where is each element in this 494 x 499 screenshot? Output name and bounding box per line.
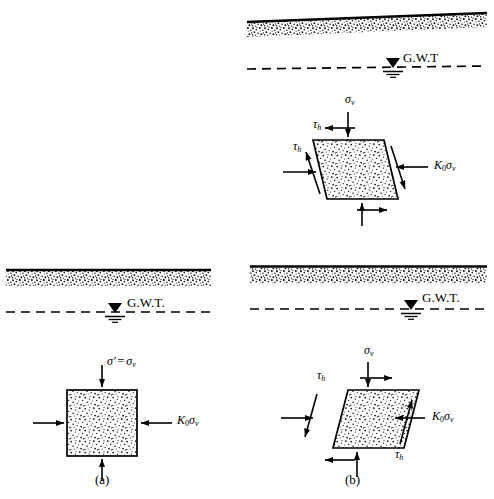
shear-stress-side-label-panel-b-top: τh bbox=[293, 140, 301, 154]
soil-element-square bbox=[67, 390, 137, 456]
vertical-stress-label-panel-a: σ′=σv bbox=[107, 355, 136, 369]
K-glyph: K bbox=[432, 409, 440, 423]
shear-stress-top-label-panel-b-top: τh bbox=[313, 118, 321, 132]
shear-stress-top-label-panel-b-bottom: τh bbox=[317, 369, 325, 383]
panel-b-bottom-ground bbox=[250, 267, 487, 284]
sub-v-glyph: v bbox=[351, 98, 355, 107]
panel-b-bottom-element bbox=[281, 362, 425, 477]
gwt-label-panel-b-bottom: G.W.T. bbox=[422, 291, 460, 304]
K-glyph: K bbox=[434, 158, 442, 172]
vertical-stress-label-panel-b-bottom: σv bbox=[364, 344, 373, 358]
gwt-label-panel-a: G.W.T. bbox=[127, 296, 165, 309]
horizontal-stress-label-panel-a: K0σv bbox=[177, 414, 199, 428]
panel-b-top-ground bbox=[247, 13, 487, 37]
caption-a: (a) bbox=[95, 473, 109, 486]
arrow-shear-left-down bbox=[305, 394, 317, 437]
panel-a-element bbox=[33, 365, 172, 481]
caption-b: (b) bbox=[345, 473, 360, 486]
panel-a-water-table bbox=[6, 303, 211, 322]
sub-h-glyph: h bbox=[317, 123, 321, 132]
panel-a-ground bbox=[6, 270, 211, 286]
shear-stress-side-label-panel-b-bottom: τh bbox=[395, 448, 403, 462]
sub-v-glyph: v bbox=[132, 360, 136, 369]
sub-v-glyph: v bbox=[370, 349, 374, 358]
sub-v-glyph: v bbox=[452, 164, 456, 173]
sub-h-glyph: h bbox=[321, 374, 325, 383]
equals-glyph: = bbox=[116, 354, 127, 368]
panel-b-top-water-table bbox=[247, 58, 487, 77]
horizontal-stress-label-panel-b-bottom: K0σv bbox=[432, 410, 454, 424]
sub-h-glyph: h bbox=[399, 453, 403, 462]
sub-v-glyph: v bbox=[195, 419, 199, 428]
figure-root: G.W.T. σ′=σv K0σv (a) G.W.T σv τh τh K0σ… bbox=[0, 0, 494, 499]
figure-canvas bbox=[0, 0, 494, 499]
sub-h-glyph: h bbox=[297, 145, 301, 154]
panel-b-top-element bbox=[283, 112, 428, 226]
water-table-dashed-line bbox=[247, 66, 487, 69]
vertical-stress-label-panel-b-top: σv bbox=[345, 93, 354, 107]
K-glyph: K bbox=[177, 413, 185, 427]
sub-v-glyph: v bbox=[450, 415, 454, 424]
horizontal-stress-label-panel-b-top: K0σv bbox=[434, 159, 456, 173]
gwt-label-panel-b-top: G.W.T bbox=[403, 51, 438, 64]
soil-element-parallelogram-left bbox=[313, 140, 398, 199]
